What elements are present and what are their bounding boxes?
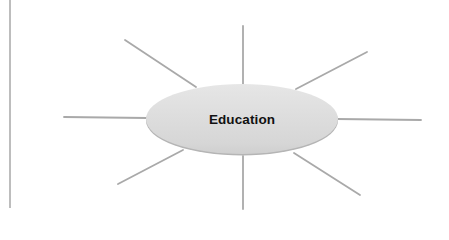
spoke-bottom-right — [294, 153, 360, 195]
spoke-top-left — [125, 40, 196, 87]
spoke-bottom-left — [118, 150, 183, 184]
spoke-left — [64, 117, 147, 118]
spoke-right — [337, 119, 421, 120]
center-node-label: Education — [146, 84, 338, 154]
